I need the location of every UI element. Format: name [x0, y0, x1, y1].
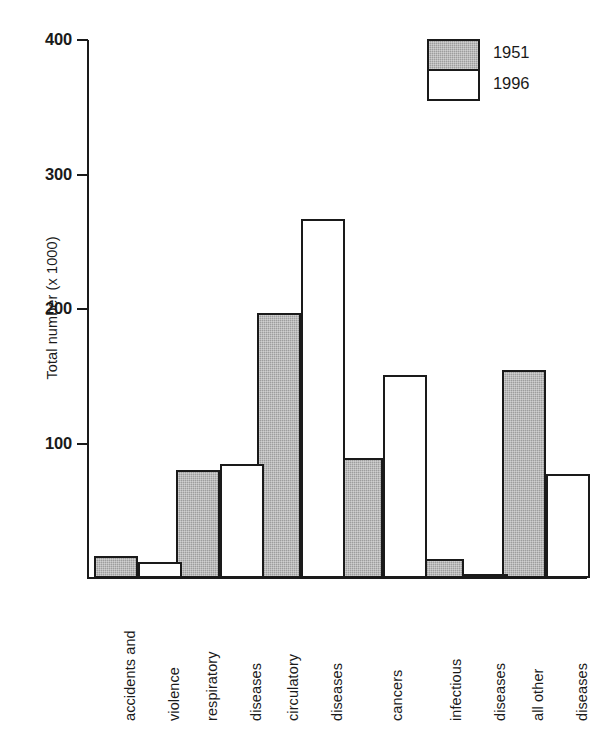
legend-swatch-1951	[427, 39, 480, 70]
bar-1996-cancers	[383, 375, 427, 578]
bar-1951-respiratory-diseases	[176, 470, 220, 578]
legend-label-1996: 1996	[493, 74, 529, 93]
bar-1996-respiratory-diseases	[220, 464, 264, 578]
x-label-respiratory-diseases-line2: diseases	[248, 663, 264, 721]
x-label-accidents-and-violence-line1: accidents and	[122, 630, 138, 721]
x-label-cancers-line1: cancers	[389, 670, 405, 721]
plot-area	[87, 40, 587, 578]
legend-swatch-1996	[427, 70, 480, 101]
y-tick-label-100: 100	[14, 434, 72, 453]
x-label-infectious-diseases-line1: infectious	[448, 659, 464, 721]
bar-chart: Total number (x 1000) 400 300 200 100 ac…	[0, 0, 595, 730]
bar-1951-accidents-and-violence	[94, 556, 138, 578]
x-label-all-other-diseases-line1: all other	[530, 669, 546, 722]
bar-1951-cancers	[339, 458, 383, 578]
x-label-respiratory-diseases-line1: respiratory	[204, 651, 220, 721]
bar-1996-all-other-diseases	[546, 474, 590, 578]
bar-1996-circulatory-diseases	[301, 219, 345, 578]
bar-1951-circulatory-diseases	[257, 313, 301, 578]
bar-1996-accidents-and-violence	[138, 562, 182, 578]
bar-1951-all-other-diseases	[502, 370, 546, 578]
x-label-circulatory-diseases-line2: diseases	[329, 663, 345, 721]
x-label-accidents-and-violence-line2: violence	[166, 667, 182, 721]
x-label-circulatory-diseases-line1: circulatory	[285, 654, 301, 721]
y-tick-label-300: 300	[14, 165, 72, 184]
x-label-all-other-diseases-line2: diseases	[574, 663, 590, 721]
y-tick-label-200: 200	[14, 299, 72, 318]
bar-1951-infectious-diseases	[420, 559, 464, 578]
bar-1996-infectious-diseases	[464, 574, 508, 578]
x-label-infectious-diseases-line2: diseases	[492, 663, 508, 721]
legend-label-1951: 1951	[493, 43, 529, 62]
y-tick-label-400: 400	[14, 30, 72, 49]
